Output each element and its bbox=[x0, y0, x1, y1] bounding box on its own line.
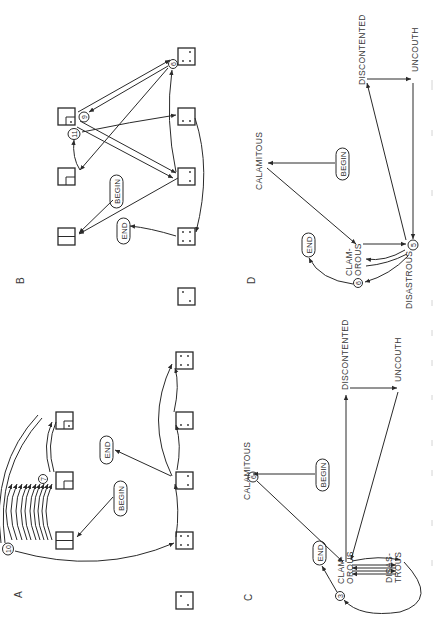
d-end-node: END bbox=[302, 233, 315, 257]
d-begin-node: BEGIN bbox=[336, 148, 349, 180]
b-square-dots4 bbox=[178, 228, 195, 245]
b-square-split bbox=[58, 228, 75, 245]
c-word-disastrous-2: TROUS bbox=[393, 552, 403, 583]
b-square-dots2-bottom bbox=[178, 108, 195, 125]
svg-text:5: 5 bbox=[410, 243, 417, 247]
d-word-uncouth: UNCOUTH bbox=[410, 27, 420, 72]
c-begin-node: BEGIN bbox=[316, 459, 329, 491]
svg-text:BEGIN: BEGIN bbox=[113, 179, 122, 204]
panel-b-label: B bbox=[15, 277, 26, 284]
c-word-uncouth: UNCOUTH bbox=[393, 337, 403, 382]
figure-canvas: B bbox=[0, 0, 439, 618]
a-end-node: END bbox=[100, 436, 113, 464]
b-count-6: 6 bbox=[169, 60, 178, 69]
svg-text:END: END bbox=[120, 222, 129, 239]
b-begin-node: BEGIN bbox=[110, 175, 123, 208]
svg-text:6: 6 bbox=[250, 475, 257, 479]
b-square-dots2-diag bbox=[178, 288, 195, 305]
svg-text:END: END bbox=[103, 441, 112, 458]
b-square-dots3 bbox=[178, 48, 195, 65]
c-count-3: 3 bbox=[336, 592, 345, 601]
d-word-calamitous: CALAMITOUS bbox=[254, 132, 264, 190]
a-begin-node: BEGIN bbox=[114, 481, 127, 516]
svg-text:11: 11 bbox=[71, 130, 78, 137]
panel-d-label: D bbox=[246, 277, 257, 284]
a-arrows bbox=[0, 364, 179, 561]
panel-c-label: C bbox=[243, 594, 254, 601]
svg-text:BEGIN: BEGIN bbox=[319, 462, 328, 487]
d-word-discontented: DISCONTENTED bbox=[357, 14, 367, 85]
d-arrows bbox=[267, 79, 413, 284]
d-count-5: 5 bbox=[408, 240, 418, 250]
a-square-dots4 bbox=[176, 532, 193, 549]
svg-text:END: END bbox=[305, 236, 314, 253]
b-square-quad-dot bbox=[58, 108, 75, 125]
a-square-quad-dot bbox=[56, 412, 73, 429]
svg-text:END: END bbox=[316, 544, 325, 561]
svg-text:3: 3 bbox=[337, 594, 344, 598]
b-arrows bbox=[74, 60, 204, 236]
a-square-dots2-right bbox=[176, 472, 193, 489]
b-square-dots2-right bbox=[178, 168, 195, 185]
a-square-split bbox=[56, 532, 73, 549]
svg-text:BEGIN: BEGIN bbox=[339, 151, 348, 176]
c-word-discontented: DISCONTENTED bbox=[340, 319, 350, 390]
b-end-node: END bbox=[117, 218, 130, 244]
d-count-6: 6 bbox=[354, 279, 363, 288]
panel-a: A bbox=[0, 352, 193, 609]
c-word-calamitous: CALAMITOUS bbox=[242, 442, 252, 500]
panel-b: B bbox=[15, 48, 204, 305]
svg-text:9: 9 bbox=[81, 115, 88, 119]
a-square-dots4-top bbox=[176, 352, 193, 369]
a-square-dots2-diag bbox=[176, 592, 193, 609]
b-count-9: 9 bbox=[79, 112, 89, 122]
a-count-10: 10 bbox=[3, 543, 14, 555]
panel-a-label: A bbox=[13, 591, 24, 598]
d-word-clamorous-2: OROUS bbox=[353, 243, 363, 276]
a-square-dots2-bottom bbox=[176, 412, 193, 429]
b-count-11: 11 bbox=[68, 129, 80, 140]
b-square-quad bbox=[58, 168, 75, 185]
svg-text:BEGIN: BEGIN bbox=[117, 486, 126, 511]
panel-d: D CALAMITOUS DISCONTENTED UNCOUTH CLAM- … bbox=[246, 14, 420, 309]
svg-text:7: 7 bbox=[40, 477, 47, 481]
svg-text:10: 10 bbox=[5, 545, 12, 553]
svg-text:6: 6 bbox=[355, 281, 362, 285]
a-count-7: 7 bbox=[39, 475, 48, 484]
a-square-quad bbox=[56, 472, 73, 489]
d-word-disastrous: DISASTROUS bbox=[404, 251, 414, 309]
panel-c: C CALAMITOUS DISCONTENTED UNCOUTH CLAM- … bbox=[242, 319, 421, 613]
svg-text:6: 6 bbox=[170, 62, 177, 66]
